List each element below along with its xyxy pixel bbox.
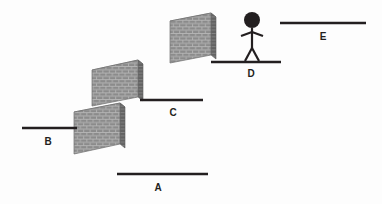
label-d: D — [247, 68, 254, 79]
label-a: A — [154, 182, 161, 193]
wall-d-front-face — [170, 13, 211, 63]
brick-wall-d — [170, 13, 216, 63]
label-c: C — [169, 107, 176, 118]
stick-figure-head-icon — [244, 12, 260, 28]
diagram-canvas: A B C D E — [0, 0, 382, 204]
wall-c-side-face — [138, 60, 143, 101]
label-b: B — [44, 136, 51, 147]
wall-d-side-face — [211, 13, 216, 59]
label-e: E — [320, 31, 327, 42]
diagram-svg: A B C D E — [0, 0, 382, 204]
wall-b-side-face — [120, 103, 125, 148]
